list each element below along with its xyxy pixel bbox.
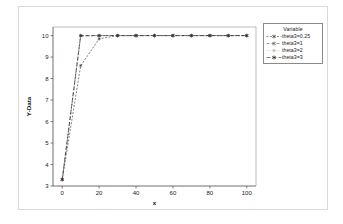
y-axis-tick-label: 3 <box>45 183 49 189</box>
legend-item-theta3-1[interactable]: theta3=1 <box>266 40 320 47</box>
series-line-2 <box>62 36 247 180</box>
y-axis-label: Y-Data <box>25 96 32 116</box>
y-axis-tick-label: 4 <box>45 162 49 168</box>
legend-label: theta3=3 <box>282 54 303 61</box>
chart-figure: 345678910020406080100xY-Data Variable th… <box>0 0 343 224</box>
x-axis-tick-label: 100 <box>242 190 253 196</box>
chart-legend: Variable theta3=0.25 th <box>263 23 323 64</box>
y-axis-tick-label: 9 <box>45 54 49 60</box>
series-markers-1 <box>61 34 249 181</box>
legend-label: theta3=2 <box>282 47 303 54</box>
y-axis-tick-label: 5 <box>45 140 49 146</box>
y-axis-tick-label: 10 <box>42 33 49 39</box>
plot-frame <box>53 27 256 186</box>
legend-item-theta3-0-25[interactable]: theta3=0.25 <box>266 33 320 40</box>
series-line-0 <box>62 36 247 180</box>
x-axis-label: x <box>153 199 157 206</box>
legend-symbol-icon <box>266 54 282 61</box>
series-line-1 <box>62 36 247 180</box>
y-axis-tick-label: 6 <box>45 119 49 125</box>
y-axis-tick-label: 7 <box>45 97 49 103</box>
series-markers-3 <box>61 34 249 181</box>
y-axis-tick-label: 8 <box>45 76 49 82</box>
series-line-3 <box>62 36 247 180</box>
x-axis-tick-label: 20 <box>96 190 103 196</box>
series-markers-0 <box>61 34 249 181</box>
x-axis-tick-label: 40 <box>133 190 140 196</box>
x-axis-tick-label: 0 <box>61 190 65 196</box>
legend-label: theta3=1 <box>282 40 303 47</box>
legend-item-theta3-3[interactable]: theta3=3 <box>266 54 320 61</box>
x-axis-tick-label: 80 <box>207 190 214 196</box>
legend-title: Variable <box>266 26 320 33</box>
legend-symbol-icon <box>266 47 282 54</box>
legend-symbol-icon <box>266 33 282 40</box>
legend-label: theta3=0.25 <box>282 33 310 40</box>
series-markers-2 <box>61 34 249 181</box>
legend-symbol-icon <box>266 40 282 47</box>
legend-item-theta3-2[interactable]: theta3=2 <box>266 47 320 54</box>
x-axis-tick-label: 60 <box>170 190 177 196</box>
axis-spines <box>53 27 256 186</box>
